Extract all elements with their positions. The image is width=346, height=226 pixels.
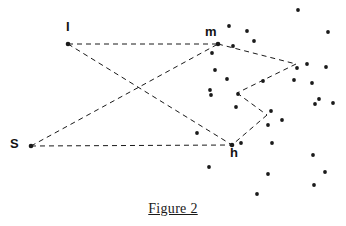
scatter-dot xyxy=(292,78,296,82)
edge-S-to-m xyxy=(31,44,218,146)
scatter-dot xyxy=(280,118,284,122)
edge-east-to-mid xyxy=(237,64,296,93)
scatter-dot xyxy=(312,183,316,187)
scatter-dot xyxy=(331,101,335,105)
vertex-label-m: m xyxy=(205,25,217,38)
vertex-label-S: S xyxy=(10,137,19,150)
scatter-dot xyxy=(208,88,212,92)
scatter-dot xyxy=(313,102,317,106)
scatter-dot xyxy=(266,172,270,176)
scatter-dot xyxy=(213,68,217,72)
scatter-dot xyxy=(296,8,300,12)
scatter-dot xyxy=(323,170,327,174)
scatter-dot xyxy=(209,93,213,97)
vertex-point-S xyxy=(29,144,34,149)
vertex-point-m xyxy=(216,42,221,47)
scatter-dot xyxy=(270,141,274,145)
scatter-dot xyxy=(311,153,315,157)
scatter-dot xyxy=(326,30,330,34)
edge-mid-to-lower xyxy=(237,93,267,115)
scatter-dot xyxy=(245,29,249,33)
scatter-dot xyxy=(252,39,256,43)
scatter-dot xyxy=(317,97,321,101)
edge-S-to-h xyxy=(31,145,232,146)
scatter-dot xyxy=(207,165,211,169)
scatter-dot xyxy=(239,141,243,145)
edges-group xyxy=(31,44,296,146)
figure-canvas: I m S h Figure 2 xyxy=(0,0,346,226)
scatter-dot xyxy=(324,65,328,69)
scatter-dot xyxy=(269,109,273,113)
scatter-dot xyxy=(255,192,259,196)
vertex-label-I: I xyxy=(66,20,70,33)
scatter-dot xyxy=(310,81,314,85)
scatter-dot xyxy=(234,105,238,109)
scatter-dot xyxy=(231,44,235,48)
scatter-dot xyxy=(266,123,270,127)
figure-caption: Figure 2 xyxy=(0,199,346,217)
figure-graphic xyxy=(0,0,346,226)
scatter-dot xyxy=(236,92,240,96)
vertices-group xyxy=(29,42,235,149)
scatter-dot xyxy=(261,79,265,83)
scatter-dot xyxy=(225,77,229,81)
scatter-dot xyxy=(227,24,231,28)
edge-lower-to-h xyxy=(232,115,267,145)
vertex-point-I xyxy=(66,42,71,47)
scatter-dot xyxy=(210,51,214,55)
scatter-dot xyxy=(195,131,199,135)
vertex-label-h: h xyxy=(230,146,238,159)
edge-m-to-east xyxy=(218,44,296,64)
scatter-dot xyxy=(305,62,309,66)
edge-I-to-h xyxy=(68,44,232,145)
figure-caption-text: Figure 2 xyxy=(148,201,197,216)
scatter-dot xyxy=(295,66,299,70)
